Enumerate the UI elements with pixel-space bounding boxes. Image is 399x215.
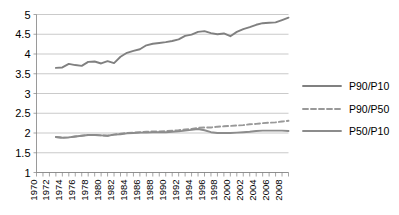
x-tick-label: 1998 (208, 180, 219, 201)
x-tick-label: 2008 (273, 180, 284, 201)
x-tick-label: 1974 (53, 180, 64, 201)
x-tick-label: 2000 (221, 180, 232, 201)
x-tick-label: 1990 (157, 180, 168, 201)
legend: P90/P10P90/P50P50/P10 (303, 80, 389, 137)
y-tick-label: 4.5 (15, 28, 30, 40)
data-series-group (56, 18, 289, 138)
x-tick-label: 1992 (170, 180, 181, 201)
x-tick-label: 1972 (40, 180, 51, 201)
x-tick-label: 1986 (131, 180, 142, 201)
x-tick-label: 2006 (260, 180, 271, 201)
line-chart: 11.522.533.544.55 1970197219741976197819… (0, 0, 399, 215)
x-tick-label: 1996 (196, 180, 207, 201)
series-line-p90-p10 (56, 18, 289, 68)
x-tick-label: 2004 (247, 180, 258, 201)
x-tick-label: 2002 (234, 180, 245, 201)
x-tick-label: 1988 (144, 180, 155, 201)
x-tick-label: 1982 (105, 180, 116, 201)
x-tick-label: 1994 (183, 180, 194, 201)
y-tick-label: 5 (24, 9, 30, 21)
x-tick-label: 1976 (66, 180, 77, 201)
x-axis-tick-labels: 1970197219741976197819801982198419861988… (28, 180, 285, 201)
y-tick-label: 3 (24, 88, 30, 100)
x-tick-label: 1984 (118, 180, 129, 201)
y-tick-label: 4 (24, 48, 30, 60)
y-axis-tick-labels: 11.522.533.544.55 (15, 9, 30, 179)
x-tick-label: 1970 (28, 180, 39, 201)
y-tick-label: 1 (24, 167, 30, 179)
legend-label-p90-p10: P90/P10 (349, 80, 389, 92)
legend-label-p50-p10: P50/P10 (349, 125, 389, 137)
y-tick-label: 2 (24, 127, 30, 139)
y-axis (34, 15, 37, 173)
gridlines (37, 15, 289, 173)
x-tick-label: 1978 (79, 180, 90, 201)
legend-label-p90-p50: P90/P50 (349, 103, 389, 115)
y-tick-label: 1.5 (15, 147, 30, 159)
y-tick-label: 2.5 (15, 107, 30, 119)
x-axis (37, 173, 289, 177)
y-tick-label: 3.5 (15, 68, 30, 80)
chart-container: 11.522.533.544.55 1970197219741976197819… (0, 0, 399, 215)
x-tick-label: 1980 (92, 180, 103, 201)
